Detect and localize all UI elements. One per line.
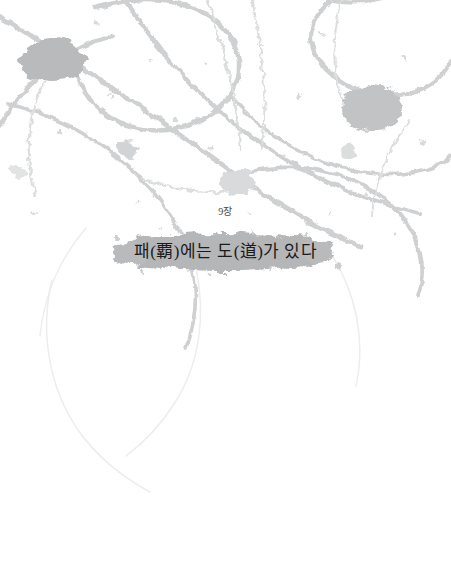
ink-blot-group [10, 40, 402, 195]
chapter-number-label: 9장 [0, 206, 451, 218]
ink-blot-center [221, 169, 255, 195]
ink-blot-left-low [10, 166, 26, 178]
ink-swoosh-group [0, 0, 451, 348]
ink-speckle-group [32, 21, 426, 235]
ink-blot-top-right [342, 85, 402, 131]
ink-blot-mid-right [339, 145, 357, 159]
ink-blot-mid-left [117, 142, 139, 158]
ink-splatter-artwork [0, 0, 451, 578]
ink-thin-strokes-group [29, 0, 410, 216]
chapter-title-page: 9장 패(覇)에는 도(道)가 있다 [0, 0, 451, 578]
chapter-title-block: 패(覇)에는 도(道)가 있다 [0, 224, 451, 280]
ink-blot-top-left [19, 40, 85, 80]
chapter-title-text: 패(覇)에는 도(道)가 있다 [0, 224, 451, 280]
